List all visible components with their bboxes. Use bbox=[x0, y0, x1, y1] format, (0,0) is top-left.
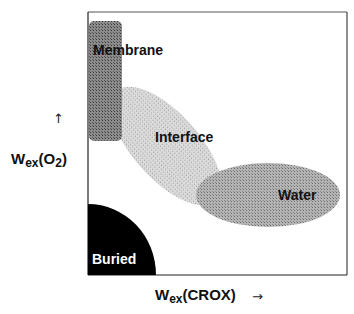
x-axis-label: Wex(CROX) bbox=[155, 286, 236, 306]
interface-label: Interface bbox=[155, 129, 214, 145]
membrane-label: Membrane bbox=[93, 42, 163, 58]
y-axis-arg-subscript: 2 bbox=[55, 156, 62, 170]
x-axis-argument: (CROX) bbox=[183, 286, 236, 303]
x-axis-arrow-icon: → bbox=[252, 289, 263, 304]
y-axis-subscript: ex bbox=[25, 156, 38, 170]
y-axis-symbol: W bbox=[11, 150, 25, 167]
x-axis-subscript: ex bbox=[169, 292, 182, 306]
y-axis-label: Wex(O2) bbox=[11, 150, 67, 170]
y-axis-arrow-icon: ↑ bbox=[53, 111, 64, 126]
y-axis-close: ) bbox=[62, 150, 67, 167]
y-axis-argument: (O bbox=[39, 150, 56, 167]
membrane-region bbox=[89, 21, 122, 141]
water-region bbox=[196, 163, 340, 227]
x-axis-symbol: W bbox=[155, 286, 169, 303]
water-label: Water bbox=[278, 187, 317, 203]
buried-label: Buried bbox=[92, 251, 136, 267]
